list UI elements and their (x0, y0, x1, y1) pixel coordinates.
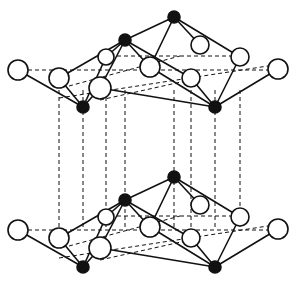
black-atom (119, 34, 131, 46)
bond-line (100, 248, 215, 267)
white-atom (268, 219, 288, 239)
black-atom (77, 261, 89, 273)
white-atom (268, 59, 288, 79)
black-atom (209, 261, 221, 273)
white-atom (231, 48, 249, 66)
top-layer (8, 11, 288, 113)
white-atom (98, 49, 114, 65)
white-atom (182, 69, 200, 87)
cell-dashed-line (69, 216, 180, 246)
white-atom (89, 77, 111, 99)
bond-line (100, 88, 215, 107)
cell-dashed-line (69, 56, 180, 86)
white-atom (182, 229, 200, 247)
white-atom (231, 208, 249, 226)
black-atom (168, 11, 180, 23)
white-atom (140, 57, 160, 77)
white-atom (49, 68, 69, 88)
black-atom (77, 101, 89, 113)
black-atom (168, 171, 180, 183)
crystal-structure-diagram (0, 0, 302, 281)
white-atom (8, 220, 28, 240)
white-atom (98, 209, 114, 225)
bottom-layer (8, 171, 288, 273)
white-atom (8, 60, 28, 80)
bond-line (125, 177, 174, 200)
white-atom (191, 36, 209, 54)
bond-line (125, 17, 174, 40)
white-atom (49, 228, 69, 248)
black-atom (119, 194, 131, 206)
white-atom (191, 196, 209, 214)
black-atom (209, 101, 221, 113)
white-atom (140, 217, 160, 237)
white-atom (89, 237, 111, 259)
